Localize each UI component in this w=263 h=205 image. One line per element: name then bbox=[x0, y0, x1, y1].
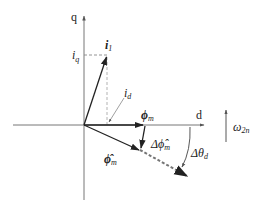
phi-m-label: ϕm bbox=[141, 108, 154, 123]
iq-label: iq bbox=[72, 48, 79, 64]
id-leader-line bbox=[109, 98, 124, 122]
delta-phi-m-hat-label: Δϕ̂m bbox=[150, 137, 170, 152]
phi-m-hat-vector bbox=[84, 125, 139, 150]
delta-theta-arc bbox=[182, 127, 190, 167]
delta-theta-label: Δθd bbox=[190, 146, 209, 161]
phi-m-hat-dashed-extension bbox=[140, 150, 187, 176]
i1-label: i1 bbox=[105, 38, 112, 53]
phi-m-hat-label: ϕ̂m bbox=[104, 152, 117, 167]
vector-diagram: q d i1 iq id ϕm ϕ̂m Δϕ̂m Δθd ω2n bbox=[0, 0, 263, 205]
d-axis-label: d bbox=[196, 108, 202, 122]
q-axis-label: q bbox=[71, 10, 77, 24]
i1-vector bbox=[84, 57, 107, 125]
id-label: id bbox=[124, 86, 132, 101]
delta-phi-m-hat-vector bbox=[141, 126, 145, 148]
omega-label: ω2n bbox=[233, 120, 249, 135]
